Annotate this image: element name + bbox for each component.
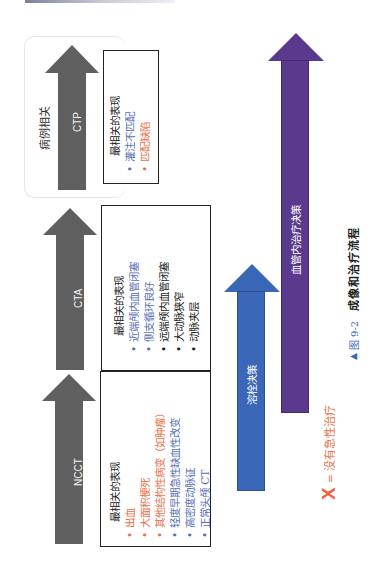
cta-item: •大动脉狭窄	[172, 262, 187, 352]
ncct-item: •大面积梗死	[138, 408, 153, 538]
ctp-arrow-label: CTP	[72, 112, 83, 132]
ncct-findings-list: 最相关的表现 •出血 •大面积梗死 •其他结构性病变（如肿瘤） •轻度早期急性缺…	[108, 408, 213, 538]
legend: X = 没有急性治疗	[318, 405, 340, 500]
legend-text: = 没有急性治疗	[321, 405, 337, 484]
ncct-arrow-label: NCCT	[73, 458, 84, 486]
thrombolysis-label: 溶栓决策	[244, 365, 259, 405]
cta-item: •远端颅内血管闭塞	[157, 262, 172, 352]
ctp-heading: 最相关的表现	[108, 96, 123, 172]
cta-item: •侧支循环良好	[142, 262, 157, 352]
cta-arrow	[43, 208, 98, 370]
ncct-item: •出血	[123, 408, 138, 538]
figure-title: 成像和治疗流程	[345, 227, 361, 311]
endovascular-label: 血管内治疗决策	[288, 205, 303, 275]
ncct-heading: 最相关的表现	[108, 408, 123, 538]
cta-heading: 最相关的表现	[112, 262, 127, 352]
ncct-item: •高密度动脉征	[183, 408, 198, 538]
cta-item: •近端颅内血管闭塞	[127, 262, 142, 352]
cta-item: •动脉夹层	[187, 262, 202, 352]
x-mark-icon: X	[318, 487, 340, 500]
ncct-item: •正常头颅 CT	[198, 408, 213, 538]
ncct-item: •其他结构性病变（如肿瘤）	[153, 408, 168, 538]
figure-number: 图 9-2	[346, 321, 361, 350]
cta-arrow-label: CTA	[73, 289, 84, 308]
top-decoration-bar	[25, 0, 175, 3]
figure-caption: ▲ 图 9-2 成像和治疗流程	[345, 227, 361, 360]
ctp-item: •匹配缺陷	[138, 96, 153, 172]
ncct-arrow	[42, 374, 97, 544]
ncct-item: •轻度早期急性缺血性改变	[168, 408, 183, 538]
triangle-marker-icon: ▲	[348, 353, 358, 360]
ctp-item: •灌注不匹配	[123, 96, 138, 172]
cta-findings-list: 最相关的表现 •近端颅内血管闭塞 •侧支循环良好 •远端颅内血管闭塞 •大动脉狭…	[112, 262, 202, 352]
ctp-findings-list: 最相关的表现 •灌注不匹配 •匹配缺陷	[108, 96, 153, 172]
